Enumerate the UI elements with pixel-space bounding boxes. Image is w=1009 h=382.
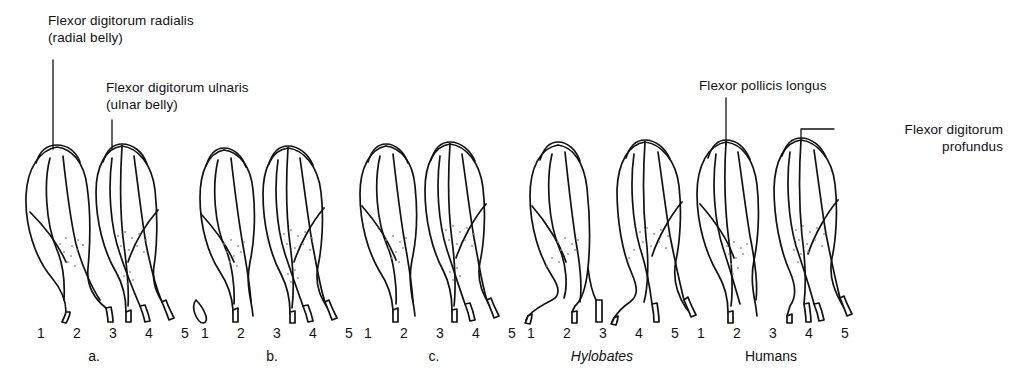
group-b-drawing <box>194 146 337 323</box>
digit-label: 3 <box>585 325 621 341</box>
caption-group-c: c. <box>404 348 464 364</box>
label-flexor-digitorum-ulnaris: Flexor digitorum ulnaris(ulnar belly) <box>106 79 249 113</box>
label-line-2: profundus <box>942 139 1003 154</box>
digit-label: 2 <box>59 325 95 341</box>
digit-label: 1 <box>683 325 719 341</box>
digit-label: 1 <box>513 325 549 341</box>
group-c-drawing <box>360 142 499 322</box>
label-line-1: Flexor digitorum <box>905 122 1003 137</box>
label-line-1: Flexor digitorum radialis <box>48 13 194 28</box>
label-line-2: (ulnar belly) <box>106 97 178 112</box>
digit-label: 4 <box>131 325 167 341</box>
label-line-1: Flexor pollicis longus <box>699 78 827 93</box>
digit-label: 2 <box>549 325 585 341</box>
group-a-drawing <box>26 144 174 323</box>
digit-label: 2 <box>386 325 422 341</box>
digit-label: 3 <box>259 325 295 341</box>
digit-row-group-a: 1 2 3 4 5 <box>23 325 203 341</box>
digit-label: 4 <box>458 325 494 341</box>
digit-label: 4 <box>295 325 331 341</box>
digit-label: 3 <box>422 325 458 341</box>
digit-label: 1 <box>23 325 59 341</box>
label-line-1: Flexor digitorum ulnaris <box>106 80 249 95</box>
leader-flexor-digitorum-profundus <box>801 129 834 139</box>
digit-label: 3 <box>95 325 131 341</box>
digit-label: 4 <box>791 325 827 341</box>
digit-row-group-b: 1 2 3 4 5 <box>187 325 367 341</box>
label-flexor-digitorum-profundus: Flexor digitorumprofundus <box>838 121 1003 155</box>
caption-group-hylobates: Hylobates <box>542 348 662 364</box>
caption-group-b: b. <box>242 348 302 364</box>
detached-tendon-b <box>194 300 207 323</box>
digit-label: 5 <box>827 325 863 341</box>
label-flexor-pollicis-longus: Flexor pollicis longus <box>699 77 827 94</box>
digit-row-group-c: 1 2 3 4 5 <box>350 325 530 341</box>
digit-label: 2 <box>719 325 755 341</box>
digit-row-group-hylobates: 1 2 3 4 5 <box>513 325 693 341</box>
caption-group-humans: Humans <box>716 348 826 364</box>
digit-label: 1 <box>350 325 386 341</box>
group-hylobates-drawing <box>525 140 696 325</box>
digit-row-group-humans: 1 2 3 4 5 <box>683 325 863 341</box>
digit-label: 3 <box>755 325 791 341</box>
digit-label: 2 <box>223 325 259 341</box>
caption-group-a: a. <box>64 348 124 364</box>
digit-label: 4 <box>621 325 657 341</box>
label-line-2: (radial belly) <box>48 30 123 45</box>
anatomy-figure: Flexor digitorum radialis(radial belly) … <box>0 0 1009 382</box>
label-flexor-digitorum-radialis: Flexor digitorum radialis(radial belly) <box>48 12 194 46</box>
digit-label: 1 <box>187 325 223 341</box>
group-humans-drawing <box>697 138 852 323</box>
